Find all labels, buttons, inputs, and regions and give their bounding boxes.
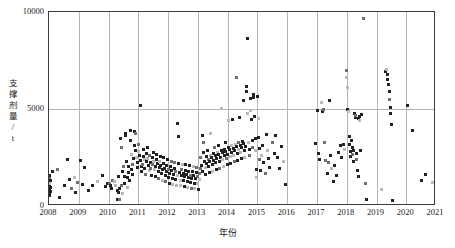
x-tick-label: 2021 [415, 208, 455, 217]
x-axis-ticks: 2008200920102011201220132014201520162017… [0, 0, 455, 248]
scatter-chart: 支撑剂量/t 0500010000 2008200920102011201220… [0, 0, 455, 248]
x-axis-title: 年份 [0, 226, 455, 239]
